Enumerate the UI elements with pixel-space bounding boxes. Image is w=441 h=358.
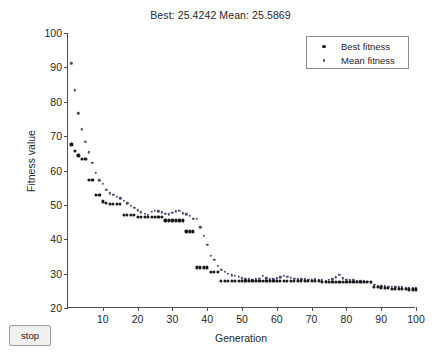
data-point-mean	[74, 89, 76, 91]
plot-axes: 2030405060708090100102030405060708090100	[67, 33, 415, 308]
data-point-mean	[199, 226, 201, 228]
data-point-mean	[164, 213, 166, 215]
x-axis-tick	[381, 307, 382, 311]
data-point-mean	[338, 274, 340, 276]
y-axis-tick-label: 60	[50, 165, 62, 177]
data-point-best	[206, 266, 209, 269]
data-point-mean	[203, 235, 205, 237]
y-axis-tick-label: 40	[50, 233, 62, 245]
x-axis-tick-label: 30	[167, 313, 179, 325]
data-point-mean	[237, 276, 239, 278]
ga-plot-figure: Best: 25.4242 Mean: 25.5869 203040506070…	[0, 0, 441, 358]
legend-item-best-fitness[interactable]: Best fitness	[307, 39, 408, 54]
data-point-mean	[136, 209, 138, 211]
y-axis-tick-label: 100	[44, 27, 62, 39]
data-point-mean	[105, 189, 107, 191]
data-point-best	[73, 149, 76, 152]
data-point-best	[192, 230, 195, 233]
y-axis-tick	[64, 308, 68, 309]
data-point-mean	[122, 200, 124, 202]
data-point-mean	[227, 273, 229, 275]
x-axis-tick	[277, 307, 278, 311]
x-axis-tick	[172, 307, 173, 311]
data-point-best	[216, 270, 219, 273]
data-point-best	[414, 288, 417, 291]
x-axis-tick-label: 70	[306, 313, 318, 325]
data-point-best	[70, 143, 73, 146]
x-axis-tick-label: 10	[97, 313, 109, 325]
x-axis-tick-label: 50	[236, 313, 248, 325]
y-axis-tick	[64, 102, 68, 103]
x-axis-tick	[416, 307, 417, 311]
data-point-mean	[77, 112, 79, 114]
data-point-mean	[98, 179, 100, 181]
data-point-mean	[185, 213, 187, 215]
data-point-mean	[119, 197, 121, 199]
data-point-mean	[70, 62, 72, 64]
data-point-best	[160, 216, 163, 219]
chart-legend: Best fitness Mean fitness	[306, 36, 409, 69]
legend-marker-mean-icon	[307, 59, 341, 62]
data-point-mean	[116, 196, 118, 198]
data-point-mean	[112, 194, 114, 196]
data-point-best	[98, 193, 101, 196]
data-point-best	[369, 281, 372, 284]
data-point-mean	[126, 202, 128, 204]
data-point-mean	[206, 244, 208, 246]
x-axis-tick	[242, 307, 243, 311]
y-axis-tick	[64, 67, 68, 68]
data-point-best	[91, 178, 94, 181]
legend-marker-best-icon	[307, 45, 341, 48]
y-axis-tick-label: 80	[50, 96, 62, 108]
x-axis-tick	[138, 307, 139, 311]
y-axis-tick	[64, 205, 68, 206]
data-point-mean	[230, 274, 232, 276]
x-axis-tick	[346, 307, 347, 311]
y-axis-tick	[64, 239, 68, 240]
x-axis-tick-label: 40	[201, 313, 213, 325]
data-point-mean	[95, 172, 97, 174]
data-point-mean	[157, 210, 159, 212]
data-point-mean	[279, 276, 281, 278]
plot-canvas	[68, 33, 416, 308]
data-point-best	[84, 157, 87, 160]
stop-button[interactable]: stop	[9, 325, 51, 346]
y-axis-tick-label: 70	[50, 130, 62, 142]
data-point-mean	[175, 210, 177, 212]
data-point-mean	[196, 218, 198, 220]
x-axis-tick-label: 60	[271, 313, 283, 325]
y-axis-tick	[64, 136, 68, 137]
data-point-mean	[133, 207, 135, 209]
data-point-mean	[178, 210, 180, 212]
data-point-mean	[209, 255, 211, 257]
x-axis-tick-label: 100	[407, 313, 425, 325]
y-axis-tick-label: 20	[50, 302, 62, 314]
data-point-mean	[286, 276, 288, 278]
data-point-mean	[154, 210, 156, 212]
data-point-mean	[161, 211, 163, 213]
data-point-best	[77, 154, 80, 157]
data-point-mean	[223, 271, 225, 273]
data-point-mean	[342, 277, 344, 279]
data-point-mean	[234, 275, 236, 277]
data-point-mean	[109, 192, 111, 194]
y-axis-tick-label: 50	[50, 199, 62, 211]
x-axis-tick	[207, 307, 208, 311]
y-axis-tick-label: 30	[50, 268, 62, 280]
data-point-best	[181, 219, 184, 222]
data-point-mean	[335, 276, 337, 278]
legend-label-best: Best fitness	[341, 41, 390, 52]
data-point-mean	[220, 269, 222, 271]
data-point-best	[119, 202, 122, 205]
data-point-mean	[262, 275, 264, 277]
x-axis-label: Generation	[67, 332, 415, 344]
data-point-mean	[129, 204, 131, 206]
y-axis-tick	[64, 33, 68, 34]
y-axis-tick-label: 90	[50, 61, 62, 73]
data-point-mean	[91, 162, 93, 164]
x-axis-tick	[312, 307, 313, 311]
legend-item-mean-fitness[interactable]: Mean fitness	[307, 53, 408, 68]
data-point-mean	[168, 213, 170, 215]
data-point-mean	[192, 217, 194, 219]
data-point-mean	[84, 141, 86, 143]
